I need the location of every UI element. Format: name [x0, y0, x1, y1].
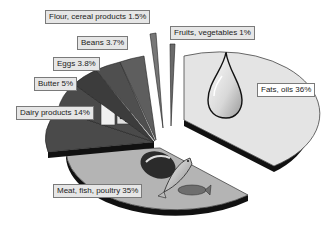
label-flour-cereal: Flour, cereal products 1.5%: [45, 10, 150, 24]
label-beans: Beans 3.7%: [77, 36, 128, 50]
label-fats-oils: Fats, oils 36%: [257, 83, 315, 97]
label-dairy-products: Dairy products 14%: [16, 106, 94, 120]
slice-fruits-vegetables: [170, 44, 175, 126]
label-butter: Butter 5%: [34, 77, 77, 91]
label-meat-fish-poultry: Meat, fish, poultry 35%: [53, 184, 142, 198]
slice-fats-oils: [184, 52, 320, 172]
slice-meat-fish-poultry: [66, 147, 248, 216]
label-fruits-vegetables: Fruits, vegetables 1%: [170, 26, 255, 40]
label-eggs: Eggs 3.8%: [53, 57, 100, 71]
